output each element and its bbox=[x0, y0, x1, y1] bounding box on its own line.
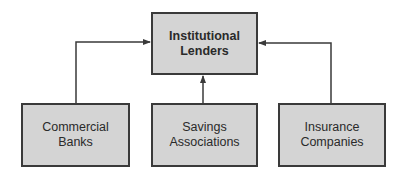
node-institutional-lenders: Institutional Lenders bbox=[151, 12, 258, 75]
edge-commercial-banks bbox=[76, 42, 150, 103]
node-label-line: Insurance bbox=[305, 120, 360, 135]
node-savings-associations: Savings Associations bbox=[151, 103, 258, 167]
node-label-line: Companies bbox=[300, 135, 363, 150]
node-insurance-companies: Insurance Companies bbox=[278, 103, 386, 167]
node-label-line: Institutional bbox=[169, 29, 240, 44]
node-commercial-banks: Commercial Banks bbox=[21, 103, 130, 167]
node-label-line: Commercial bbox=[42, 120, 109, 135]
node-label-line: Associations bbox=[169, 135, 239, 150]
node-label-line: Banks bbox=[58, 135, 93, 150]
edge-insurance-companies bbox=[259, 43, 331, 103]
node-label-line: Savings bbox=[182, 120, 226, 135]
node-label-line: Lenders bbox=[180, 44, 229, 59]
